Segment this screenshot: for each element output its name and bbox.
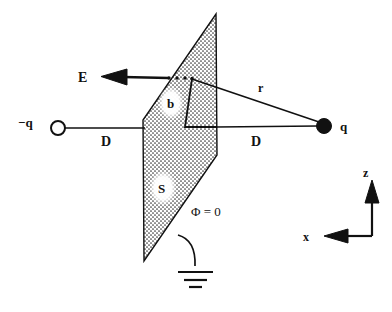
- physics-diagram-canvas: −q q D D r E b S Φ = 0 z x: [0, 0, 392, 312]
- negative-charge-marker: [51, 121, 65, 135]
- ground-lead-curve: [178, 235, 195, 266]
- electric-field-label: E: [78, 70, 87, 85]
- distance-label-right: D: [251, 134, 261, 149]
- surface-label: S: [158, 181, 165, 196]
- patch-label: b: [167, 96, 174, 111]
- radius-label: r: [258, 81, 264, 95]
- negative-charge-label: −q: [18, 115, 33, 130]
- positive-charge-label: q: [340, 119, 348, 134]
- field-arrow-shaft: [123, 77, 169, 78]
- conducting-plane-shape: [143, 14, 217, 261]
- positive-charge-marker: [317, 119, 332, 134]
- z-axis-label: z: [363, 166, 369, 180]
- diagram-svg: −q q D D r E b S Φ = 0 z x: [0, 0, 392, 312]
- field-dot: [175, 76, 178, 79]
- z-axis-arrowhead: [365, 180, 379, 203]
- field-dot: [190, 77, 193, 80]
- electric-field-arrow: [101, 69, 169, 85]
- x-axis-label: x: [303, 230, 309, 244]
- ground-symbol: [178, 235, 213, 287]
- potential-label: Φ = 0: [191, 204, 221, 219]
- coordinate-axes: [324, 180, 379, 243]
- field-arrow-head: [101, 69, 127, 85]
- field-dot: [183, 76, 186, 79]
- conducting-plane: [143, 14, 217, 261]
- axis-segment-right: [216, 126, 318, 127]
- x-axis-arrowhead: [324, 229, 348, 243]
- distance-label-left: D: [101, 134, 111, 149]
